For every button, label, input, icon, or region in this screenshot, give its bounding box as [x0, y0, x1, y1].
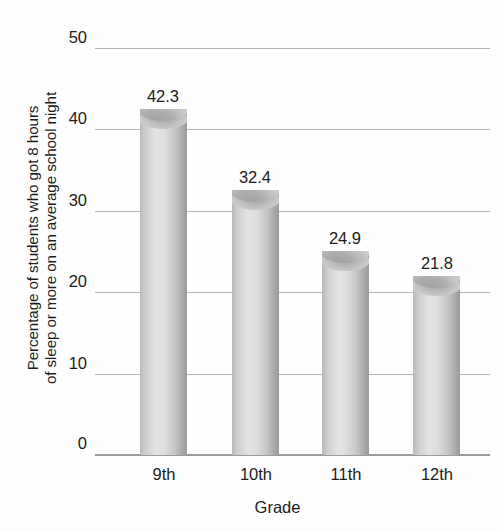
- bar-chart: Percentage of students who got 8 hours o…: [0, 0, 497, 531]
- bar-9th[interactable]: [140, 110, 187, 455]
- value-label-9th: 42.3: [123, 88, 203, 105]
- value-label-12th: 21.8: [397, 255, 477, 272]
- y-axis-title-line-2: of sleep or more on an average school ni…: [42, 92, 60, 384]
- bar-cap-11th: [322, 251, 369, 272]
- y-axis-title-line-1: Percentage of students who got 8 hours: [24, 106, 42, 371]
- value-label-10th: 32.4: [215, 169, 295, 186]
- x-tick-label-9th: 9th: [124, 466, 204, 483]
- y-tick-label-50: 50: [43, 29, 87, 46]
- bar-12th[interactable]: [413, 277, 460, 455]
- y-tick-label-0: 0: [43, 435, 87, 452]
- bar-11th[interactable]: [322, 252, 369, 455]
- y-tick-label-30: 30: [43, 192, 87, 209]
- bar-body-11th: [322, 252, 369, 455]
- bar-10th[interactable]: [232, 191, 279, 455]
- bar-body-9th: [140, 110, 187, 455]
- bar-body-10th: [232, 191, 279, 455]
- x-tick-label-11th: 11th: [306, 466, 386, 483]
- x-tick-label-10th: 10th: [216, 466, 296, 483]
- y-tick-label-20: 20: [43, 273, 87, 290]
- bar-cap-10th: [232, 190, 279, 211]
- y-axis-title: Percentage of students who got 8 hours o…: [0, 0, 86, 470]
- y-tick-label-40: 40: [43, 110, 87, 127]
- y-tick-label-10: 10: [43, 355, 87, 372]
- bar-body-12th: [413, 277, 460, 455]
- x-axis-title-text: Grade: [255, 498, 301, 516]
- x-axis-title: Grade: [0, 498, 497, 517]
- bar-cap-12th: [413, 276, 460, 297]
- gridline-50: 50: [95, 48, 490, 49]
- bar-cap-9th: [140, 109, 187, 130]
- value-label-11th: 24.9: [305, 230, 385, 247]
- x-tick-label-12th: 12th: [397, 466, 477, 483]
- plot-area: 50 40 30 20 10 0: [95, 48, 490, 455]
